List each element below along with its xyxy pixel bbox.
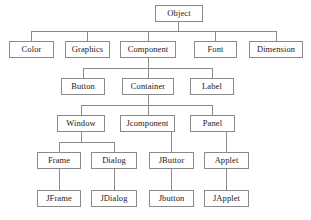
node-component[interactable]: Component xyxy=(120,41,176,58)
node-graphics[interactable]: Graphics xyxy=(65,41,110,58)
class-hierarchy-diagram: Object Color Graphics Component Font Dim… xyxy=(0,0,311,220)
node-button[interactable]: Button xyxy=(61,78,105,95)
edge-bus-to-font xyxy=(215,31,216,41)
edge-jcomponent-to-jbuttor xyxy=(171,132,172,152)
edge-bus-to-component xyxy=(148,31,149,41)
node-jcomponent[interactable]: Jcomponent xyxy=(120,115,175,132)
node-font[interactable]: Font xyxy=(194,41,237,58)
edge-bus-to-button xyxy=(83,68,84,78)
edge-bus-to-panel xyxy=(212,105,213,115)
node-panel[interactable]: Panel xyxy=(190,115,235,132)
edge-bus-to-graphics xyxy=(87,31,88,41)
node-dimension[interactable]: Dimension xyxy=(249,41,303,58)
edge-bus-to-jcomponent xyxy=(148,105,149,115)
edge-dialog-to-jdialog xyxy=(114,169,115,190)
node-jbutton[interactable]: Jbutton xyxy=(149,190,194,207)
edge-bus-to-window xyxy=(81,105,82,115)
node-color[interactable]: Color xyxy=(9,41,54,58)
edge-object-down xyxy=(178,22,179,31)
edge-bus-to-color xyxy=(31,31,32,41)
node-frame[interactable]: Frame xyxy=(37,152,81,169)
edge-bus-to-container xyxy=(148,68,149,78)
node-applet[interactable]: Applet xyxy=(204,152,249,169)
edge-component-down xyxy=(148,58,149,68)
edge-bus-to-dimension xyxy=(276,31,277,41)
edge-window-down xyxy=(81,132,82,142)
node-label[interactable]: Label xyxy=(190,78,234,95)
node-window[interactable]: Window xyxy=(57,115,105,132)
edge-container-down xyxy=(148,95,149,105)
edge-frame-to-jframe xyxy=(59,169,60,190)
edge-level2-bus xyxy=(31,31,276,32)
edge-applet-to-japplet xyxy=(226,169,227,190)
edge-bus-to-frame xyxy=(59,142,60,152)
edge-bus-to-dialog xyxy=(114,142,115,152)
node-container[interactable]: Container xyxy=(122,78,174,95)
node-jdialog[interactable]: JDialog xyxy=(91,190,137,207)
node-jbuttor[interactable]: JButtor xyxy=(149,152,194,169)
node-japplet[interactable]: JApplet xyxy=(204,190,249,207)
edge-bus-to-label xyxy=(212,68,213,78)
edge-level4-bus xyxy=(81,105,213,106)
edge-window-bus xyxy=(59,142,114,143)
edge-jbuttor-to-jbutton xyxy=(171,169,172,190)
node-jframe[interactable]: JFrame xyxy=(37,190,81,207)
node-object[interactable]: Object xyxy=(155,5,203,22)
edge-panel-to-applet xyxy=(226,132,227,152)
node-dialog[interactable]: Dialog xyxy=(91,152,137,169)
